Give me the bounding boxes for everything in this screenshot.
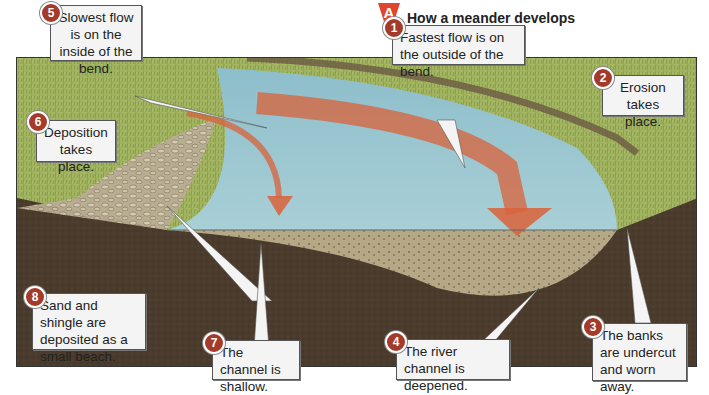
number-badge-5: 5 xyxy=(40,2,62,24)
callout-text: The banks are undercut and worn away. xyxy=(600,328,676,394)
number-badge-6: 6 xyxy=(27,111,49,133)
callout-text: Sand and shingle are deposited as a smal… xyxy=(40,298,128,364)
callout-text: Erosion takes place. xyxy=(620,80,666,129)
callout-text: The river channel is deepened. xyxy=(404,344,468,393)
callout-5-slowest-flow: Slowest flow is on the inside of the ben… xyxy=(50,5,142,61)
number-badge-8: 8 xyxy=(24,286,46,308)
callout-1-fastest-flow: Fastest flow is on the outside of the be… xyxy=(392,25,525,65)
number-badge-4: 4 xyxy=(385,331,407,353)
callout-8-beach: Sand and shingle are deposited as a smal… xyxy=(32,293,146,350)
callout-3-undercut-banks: The banks are undercut and worn away. xyxy=(592,323,687,381)
number-badge-1: 1 xyxy=(383,17,405,39)
title-text: How a meander develops xyxy=(407,10,575,26)
callout-text: The channel is shallow. xyxy=(220,345,281,394)
callout-4-channel-deepened: The river channel is deepened. xyxy=(396,339,510,380)
number-badge-7: 7 xyxy=(203,332,225,354)
callout-2-erosion: Erosion takes place. xyxy=(602,75,684,116)
number-badge-2: 2 xyxy=(592,67,614,89)
callout-7-shallow-channel: The channel is shallow. xyxy=(212,340,300,380)
number-badge-3: 3 xyxy=(582,316,604,338)
